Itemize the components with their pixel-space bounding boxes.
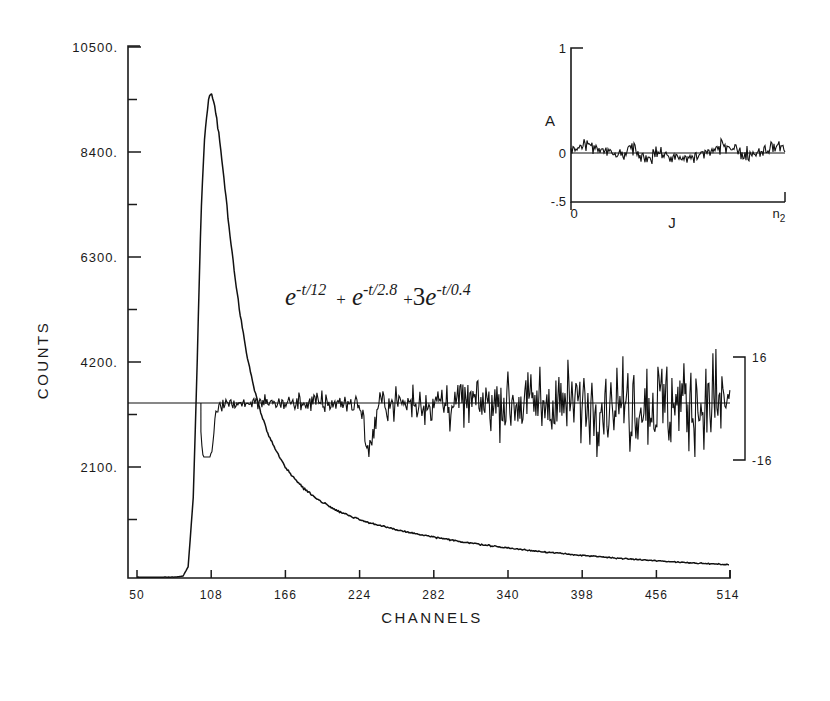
eq-term3-exponent: -t/0.4 xyxy=(436,281,470,298)
inset-y-tick-label-neg05: -.5 xyxy=(551,194,566,209)
eq-coefficient-3: 3 xyxy=(413,283,426,310)
eq-plus-1: + xyxy=(336,290,346,309)
residual-scale-bottom-label: -16 xyxy=(752,454,772,468)
x-tick-label-514: 514 xyxy=(716,588,739,602)
y-tick-label-10500: 10500. xyxy=(72,40,118,55)
y-axis-title: COUNTS xyxy=(34,321,51,399)
inset-x-tick-label-0: 0 xyxy=(570,206,577,221)
x-tick-label-398: 398 xyxy=(571,588,594,602)
eq-term2-exponent: -t/2.8 xyxy=(363,281,397,298)
x-tick-label-282: 282 xyxy=(422,588,445,602)
svg-text:e-t/12+e-t/2.8+3e-t/0.4: e-t/12+e-t/2.8+3e-t/0.4 xyxy=(285,281,471,310)
x-tick-label-224: 224 xyxy=(348,588,371,602)
figure-container: 10500. 8400. 6300. 4200. 2100. COUNTS 50 xyxy=(0,0,830,701)
y-tick-label-8400: 8400. xyxy=(80,145,118,160)
inset-x-label-sub: 2 xyxy=(780,213,786,224)
y-tick-label-4200: 4200. xyxy=(80,355,118,370)
residual-scale-top-label: 16 xyxy=(752,351,767,365)
inset-y-tick-label-0: 0 xyxy=(559,146,566,161)
y-major-ticks xyxy=(128,47,141,467)
x-tick-label-166: 166 xyxy=(274,588,297,602)
x-tick-label-456: 456 xyxy=(645,588,668,602)
inset-autocorrelation-curve xyxy=(571,139,785,164)
equation-annotation: e-t/12+e-t/2.8+3e-t/0.4 xyxy=(285,281,471,310)
x-ticks xyxy=(137,570,730,578)
inset-axis-line xyxy=(571,48,785,202)
x-axis-title: CHANNELS xyxy=(381,609,483,626)
main-axes: 10500. 8400. 6300. 4200. 2100. COUNTS 50 xyxy=(34,40,740,626)
eq-plus-2: + xyxy=(403,290,413,309)
eq-term1-base: e xyxy=(285,283,296,310)
residual-scale-bracket: 16 -16 xyxy=(733,351,772,468)
y-tick-label-6300: 6300. xyxy=(80,250,118,265)
inset-y-tick-label-1: 1 xyxy=(559,41,566,56)
x-tick-label-50: 50 xyxy=(129,588,144,602)
inset-x-label-main: n xyxy=(773,206,780,221)
inset-x-tick-label-n2: n2 xyxy=(773,206,786,224)
eq-term2-base: e xyxy=(352,283,363,310)
y-tick-label-2100: 2100. xyxy=(80,460,118,475)
inset-x-axis-title: J xyxy=(668,214,676,231)
decay-curve-figure: 10500. 8400. 6300. 4200. 2100. COUNTS 50 xyxy=(0,0,830,701)
y-minor-ticks xyxy=(128,100,137,520)
decay-data-curve xyxy=(137,94,729,577)
eq-term3-base: e xyxy=(425,283,436,310)
inset-y-axis-title: A xyxy=(545,112,555,129)
eq-term1-exponent: -t/12 xyxy=(296,281,326,298)
autocorrelation-inset: 1 0 -.5 A J 0 n2 xyxy=(545,41,786,231)
x-tick-label-340: 340 xyxy=(496,588,519,602)
main-axis-line xyxy=(128,46,730,578)
x-tick-label-108: 108 xyxy=(200,588,223,602)
